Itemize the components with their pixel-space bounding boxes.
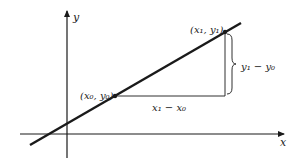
rise-label: y₁ − y₀ (240, 61, 275, 72)
x-axis-label: x (280, 136, 287, 149)
y-axis-label: y (72, 11, 80, 24)
point-p0-label: (x₀, y₀) (80, 90, 114, 101)
run-label: x₁ − x₀ (152, 102, 186, 113)
point-p1-label: (x₁, y₁) (190, 24, 224, 35)
slope-diagram: y x (x₀, y₀) (x₁, y₁) x₁ − x₀ y₁ − y₀ (0, 0, 298, 163)
secant-line (30, 23, 241, 145)
rise-brace (227, 34, 236, 94)
